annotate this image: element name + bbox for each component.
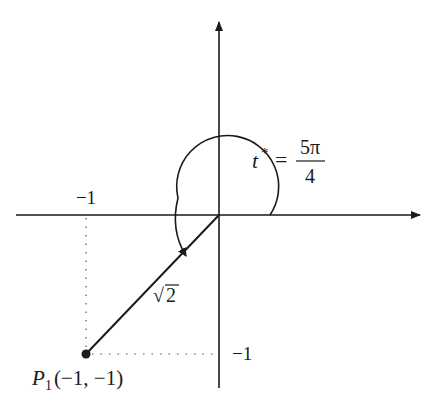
segment-length-label: √ 2: [153, 284, 179, 306]
point-subscript: 1: [45, 378, 52, 393]
angle-superscript: *: [261, 145, 269, 161]
point-label: P 1 (−1, −1): [31, 366, 123, 393]
point-p1: [82, 350, 91, 359]
angle-var: t: [252, 148, 259, 173]
point-coords: (−1, −1): [54, 366, 123, 390]
angle-denominator: 4: [305, 165, 315, 187]
x-tick-label-neg1: −1: [76, 187, 96, 208]
sqrt-value: 2: [166, 284, 176, 306]
angle-numerator: 5π: [300, 136, 320, 158]
y-tick-label-neg1: −1: [232, 343, 252, 364]
point-name: P: [31, 366, 45, 390]
angle-equals: =: [275, 147, 287, 172]
diagram-canvas: t * = 5π 4 −1 −1 √ 2 P 1 (−1, −1): [0, 0, 434, 411]
angle-label: t * = 5π 4: [252, 136, 325, 187]
sqrt-symbol: √: [153, 284, 164, 306]
